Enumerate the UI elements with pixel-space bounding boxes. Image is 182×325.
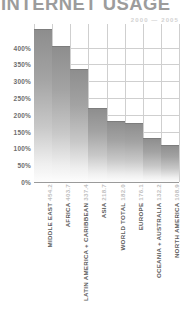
y-axis-tick-label: 150% [1, 129, 31, 136]
chart-subtitle: 2000 — 2005 [131, 17, 179, 23]
bar [107, 121, 125, 182]
y-axis-tick-label: 100% [1, 145, 31, 152]
x-axis-value-label: 218.7 [100, 184, 107, 201]
bar-top-edge [52, 46, 70, 47]
bar-top-edge [34, 29, 52, 30]
bar-top-edge [88, 108, 107, 109]
y-axis-tick-label: 250% [1, 95, 31, 102]
bar-top-edge [125, 123, 143, 124]
y-axis-tick-label: 400% [1, 45, 31, 52]
y-axis-tick-label: 50% [1, 162, 31, 169]
x-axis-tick-label: WORLD TOTAL 182.0 [119, 184, 127, 250]
bar [143, 138, 161, 182]
x-axis-category-name: NORTH AMERICA [173, 201, 180, 258]
x-axis-tick-label: EUROPE 176.1 [137, 184, 145, 230]
x-axis-category-name: LATIN AMERICA + CARIBBEAN [82, 201, 89, 301]
axis-baseline [34, 182, 179, 183]
x-axis-tick-label: ASIA 218.7 [100, 184, 108, 218]
bar-top-edge [143, 138, 161, 139]
chart-container: INTERNET USAGE 2000 — 2005 0%50%100%150%… [0, 0, 182, 325]
bar [70, 69, 88, 182]
gridline-vertical [179, 24, 180, 182]
x-axis-category-name: EUROPE [137, 201, 144, 231]
bars-layer [34, 24, 179, 182]
x-axis-value-label: 337.4 [82, 184, 89, 201]
x-axis-value-label: 182.0 [119, 184, 126, 201]
x-axis-value-label: 176.1 [137, 184, 144, 201]
x-axis-category-name: MIDDLE EAST [46, 201, 53, 248]
y-axis: 0%50%100%150%200%250%300%350%400% [0, 24, 31, 182]
x-axis-tick-label: MIDDLE EAST 454.2 [46, 184, 54, 247]
bar [161, 145, 179, 182]
plot-area [34, 24, 179, 182]
x-axis-value-label: 454.2 [46, 184, 53, 201]
x-axis-tick-label: AFRICA 403.7 [64, 184, 72, 227]
x-axis-category-name: AFRICA [64, 201, 71, 228]
y-axis-tick-label: 350% [1, 61, 31, 68]
x-axis-tick-label: OCEANIA + AUSTRALIA 132.2 [155, 184, 163, 278]
chart-title: INTERNET USAGE [1, 0, 178, 14]
bar [125, 123, 143, 182]
x-axis-value-label: 403.7 [64, 184, 71, 201]
x-axis-tick-label: LATIN AMERICA + CARIBBEAN 337.4 [82, 184, 90, 301]
x-axis: MIDDLE EAST 454.2AFRICA 403.7LATIN AMERI… [34, 184, 179, 325]
bar [88, 108, 107, 182]
bar-top-edge [107, 121, 125, 122]
bar-top-edge [161, 145, 179, 146]
x-axis-category-name: OCEANIA + AUSTRALIA [155, 201, 162, 278]
x-axis-category-name: ASIA [100, 201, 107, 219]
x-axis-value-label: 108.9 [173, 184, 180, 201]
x-axis-tick-label: NORTH AMERICA 108.9 [173, 184, 181, 258]
x-axis-value-label: 132.2 [155, 184, 162, 201]
y-axis-tick-label: 0% [1, 179, 31, 186]
bar [52, 46, 70, 182]
y-axis-tick-label: 200% [1, 112, 31, 119]
x-axis-category-name: WORLD TOTAL [119, 201, 126, 251]
bar-top-edge [70, 69, 88, 70]
bar [34, 29, 52, 182]
y-axis-tick-label: 300% [1, 78, 31, 85]
